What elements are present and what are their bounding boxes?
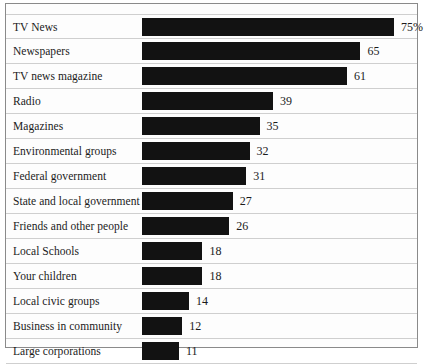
bar-value-label: 14 xyxy=(196,289,208,314)
bar-row: TV News75% xyxy=(6,14,417,39)
bar xyxy=(142,342,179,360)
bar-row: Business in community12 xyxy=(6,314,417,339)
bar-row: Local Schools18 xyxy=(6,239,417,264)
bar-row: Newspapers65 xyxy=(6,39,417,64)
bar xyxy=(142,117,260,135)
bar-track: 14 xyxy=(142,289,417,314)
bar-value-label: 26 xyxy=(236,214,248,239)
bar-row: Magazines35 xyxy=(6,114,417,139)
bar-value-label: 35 xyxy=(267,114,279,139)
bar-row: Radio39 xyxy=(6,89,417,114)
bar-category-label: Environmental groups xyxy=(13,139,117,164)
bar-category-label: Large corporations xyxy=(13,339,101,364)
bar xyxy=(142,42,360,60)
bar-value-label: 39 xyxy=(280,89,292,114)
bar xyxy=(142,142,250,160)
bar xyxy=(142,67,347,85)
bar-category-label: Radio xyxy=(13,89,41,114)
bar-track: 12 xyxy=(142,314,417,339)
bar-category-label: Business in community xyxy=(13,314,122,339)
bar-row: State and local government27 xyxy=(6,189,417,214)
bar-track: 61 xyxy=(142,64,417,89)
bar-category-label: Your children xyxy=(13,264,77,289)
bar-category-label: Newspapers xyxy=(13,39,70,64)
bar-category-label: TV News xyxy=(13,15,58,40)
bar-track: 27 xyxy=(142,189,417,214)
bar xyxy=(142,92,273,110)
bar-track: 32 xyxy=(142,139,417,164)
bar-category-label: Local Schools xyxy=(13,239,79,264)
bar-track: 18 xyxy=(142,264,417,289)
bar-track: 35 xyxy=(142,114,417,139)
bar-row: Large corporations11 xyxy=(6,339,417,364)
bar-row: Federal government31 xyxy=(6,164,417,189)
bar-value-label: 27 xyxy=(240,189,252,214)
bar xyxy=(142,217,229,235)
bar-category-label: Magazines xyxy=(13,114,63,139)
bar-track: 18 xyxy=(142,239,417,264)
bar-value-label: 18 xyxy=(209,239,221,264)
bar xyxy=(142,18,394,36)
bar-value-label: 65 xyxy=(367,39,379,64)
bar-value-label: 32 xyxy=(257,139,269,164)
bar-chart-plot-area: TV News75%Newspapers65TV news magazine61… xyxy=(6,14,417,347)
bar xyxy=(142,317,182,335)
bar-track: 75% xyxy=(142,15,417,40)
bar-value-label: 75% xyxy=(401,15,423,40)
bar xyxy=(142,167,246,185)
bar-row: Environmental groups32 xyxy=(6,139,417,164)
bar-row: Your children18 xyxy=(6,264,417,289)
bar-row: Local civic groups14 xyxy=(6,289,417,314)
bar xyxy=(142,267,202,285)
bar-category-label: TV news magazine xyxy=(13,64,102,89)
bar-value-label: 12 xyxy=(189,314,201,339)
bar-value-label: 31 xyxy=(253,164,265,189)
bar-value-label: 18 xyxy=(209,264,221,289)
bar-value-label: 11 xyxy=(186,339,198,364)
bar-value-label: 61 xyxy=(354,64,366,89)
bar-category-label: Friends and other people xyxy=(13,214,128,239)
bar-track: 31 xyxy=(142,164,417,189)
bar xyxy=(142,242,202,260)
bar-row: TV news magazine61 xyxy=(6,64,417,89)
chart-frame: TV News75%Newspapers65TV news magazine61… xyxy=(5,3,418,348)
bar-track: 26 xyxy=(142,214,417,239)
bar-row: Friends and other people26 xyxy=(6,214,417,239)
bar xyxy=(142,292,189,310)
bar-track: 11 xyxy=(142,339,417,364)
bar-track: 39 xyxy=(142,89,417,114)
bar xyxy=(142,192,233,210)
bar-track: 65 xyxy=(142,39,417,64)
bar-category-label: Federal government xyxy=(13,164,106,189)
bar-category-label: State and local government xyxy=(13,189,140,214)
bar-category-label: Local civic groups xyxy=(13,289,99,314)
